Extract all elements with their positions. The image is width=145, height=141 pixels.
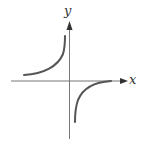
upper-left-branch xyxy=(24,36,65,75)
lower-right-branch xyxy=(75,81,111,122)
coordinate-graph xyxy=(0,0,145,141)
y-axis-arrow-icon xyxy=(67,21,73,30)
y-axis-label: y xyxy=(64,4,71,17)
x-axis-label: x xyxy=(129,73,136,86)
x-axis-arrow-icon xyxy=(120,78,128,84)
